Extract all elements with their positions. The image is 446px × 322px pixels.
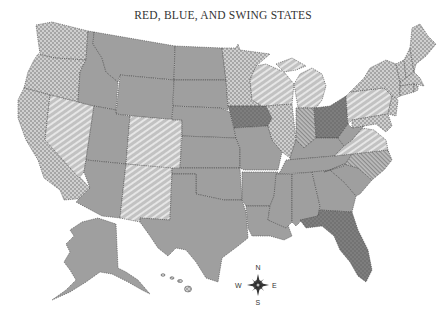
compass-n: N [256,264,261,271]
compass-w: W [235,282,242,289]
state-ia[interactable] [228,106,272,128]
state-wa[interactable] [36,22,88,60]
us-map: N S E W [0,0,446,322]
state-me[interactable] [410,24,436,72]
state-ri[interactable] [414,84,418,92]
compass-e: E [272,282,277,289]
state-hi[interactable] [161,274,192,292]
state-sd[interactable] [173,80,228,110]
state-ks[interactable] [180,136,240,168]
state-ak[interactable] [52,218,150,300]
state-wy[interactable] [116,75,174,120]
state-co[interactable] [126,116,182,170]
compass-s: S [256,299,261,306]
state-nd[interactable] [174,46,226,80]
state-fl[interactable] [300,210,372,282]
state-ct[interactable] [400,84,414,96]
state-nm[interactable] [120,164,172,222]
compass-rose-icon [247,274,269,296]
